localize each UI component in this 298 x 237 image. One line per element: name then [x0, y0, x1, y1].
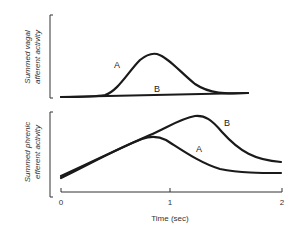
bottom-label-a: A: [196, 144, 202, 154]
top-label-a: A: [114, 60, 120, 70]
bottom-curve-a: [61, 137, 281, 178]
top-ylabel-line2: afferent activity: [33, 29, 42, 84]
top-panel: Summed vagal afferent activity A B: [23, 15, 248, 98]
bottom-curve-b: [61, 116, 281, 176]
bottom-ylabel-line2: efferent activity: [33, 124, 42, 179]
bottom-ylabel-line1: Summed phrenic: [23, 122, 32, 182]
bottom-label-b: B: [224, 118, 230, 128]
x-tick-label-0: 0: [59, 198, 64, 207]
bottom-y-bracket: [50, 112, 53, 197]
top-label-b: B: [154, 84, 160, 94]
x-axis-title: Time (sec): [151, 214, 189, 223]
bottom-panel: Summed phrenic efferent activity 0 1 2 T…: [23, 112, 285, 223]
top-ylabel-line1: Summed vagal: [23, 30, 32, 84]
x-tick-label-2: 2: [280, 198, 285, 207]
x-tick-label-1: 1: [168, 198, 173, 207]
top-y-bracket: [50, 15, 53, 98]
figure: Summed vagal afferent activity A B Summe…: [0, 0, 298, 237]
